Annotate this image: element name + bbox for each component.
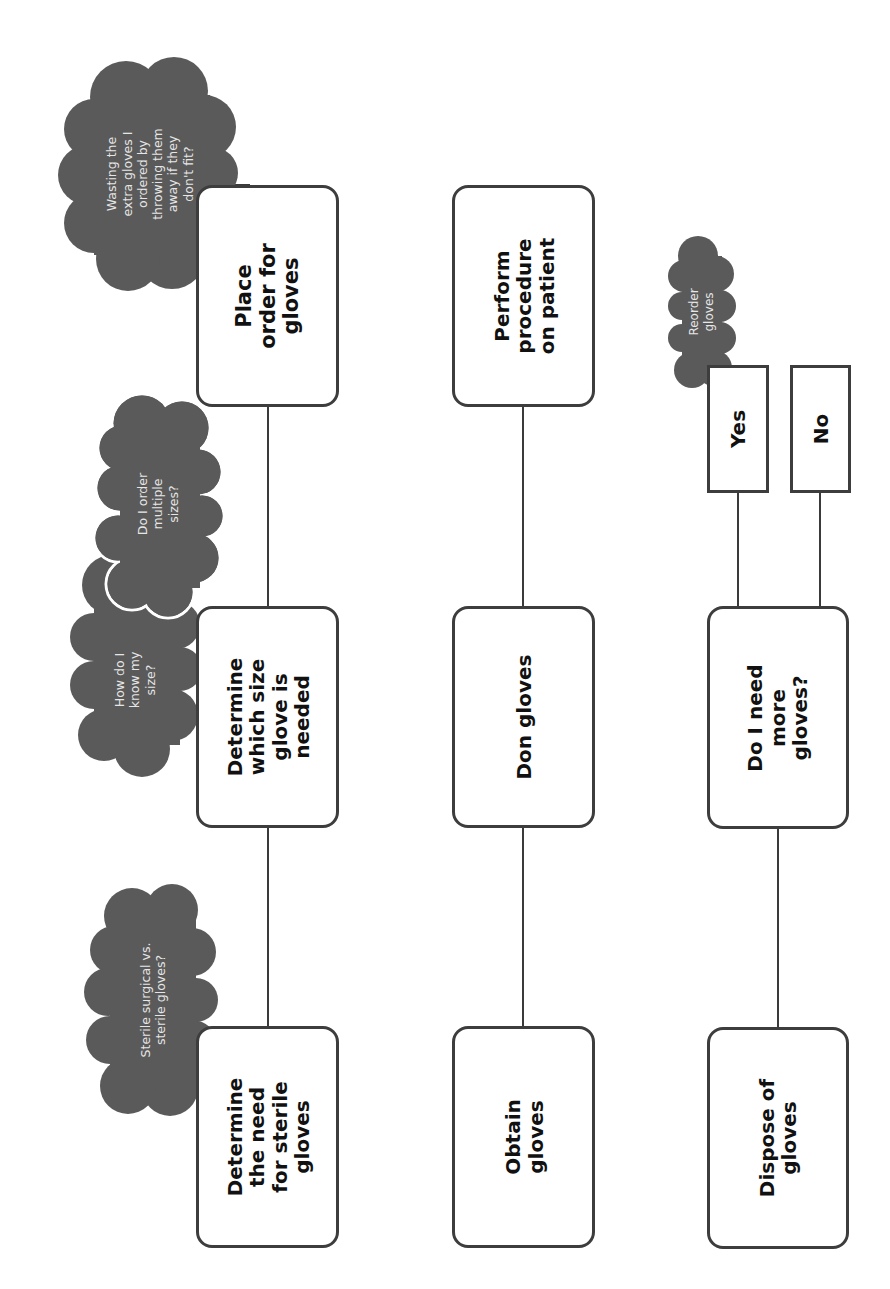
step-obtain-gloves: Obtain gloves bbox=[452, 1026, 595, 1248]
step-place-order-label: Place order for gloves bbox=[232, 243, 303, 349]
branch-no-label: No bbox=[809, 414, 831, 444]
connector-perform-to-don bbox=[522, 406, 524, 608]
cloud-reorder-text: Reorder gloves bbox=[687, 288, 716, 335]
connector-place-to-size bbox=[267, 405, 269, 608]
flowchart-canvas: Wasting the extra gloves I ordered by th… bbox=[0, 0, 890, 1289]
connector-no-to-question bbox=[819, 491, 821, 608]
branch-yes: Yes bbox=[707, 365, 769, 493]
step-determine-need-label: Determine the need for sterile gloves bbox=[223, 1078, 313, 1197]
cloud-sterile-text: Sterile surgical vs. sterile gloves? bbox=[138, 943, 169, 1058]
connector-don-to-obtain bbox=[522, 826, 524, 1028]
cloud-multiple-sizes-text: Do I order multiple sizes? bbox=[135, 473, 181, 535]
step-perform-procedure: Perform procedure on patient bbox=[452, 185, 595, 407]
cloud-multiple-sizes: Do I order multiple sizes? bbox=[98, 388, 218, 620]
branch-yes-label: Yes bbox=[727, 410, 749, 448]
cloud-wasting-text: Wasting the extra gloves I ordered by th… bbox=[104, 128, 196, 220]
step-place-order: Place order for gloves bbox=[196, 185, 339, 407]
connector-size-to-need bbox=[267, 826, 269, 1028]
connector-question-to-dispose bbox=[777, 827, 779, 1029]
step-perform-procedure-label: Perform procedure on patient bbox=[490, 238, 557, 355]
step-obtain-gloves-label: Obtain gloves bbox=[501, 1099, 546, 1174]
step-determine-size-label: Determine which size glove is needed bbox=[223, 658, 313, 777]
cloud-know-size-text: How do I know my size? bbox=[112, 651, 158, 708]
step-dispose-gloves-label: Dispose of gloves bbox=[756, 1079, 801, 1197]
step-dispose-gloves: Dispose of gloves bbox=[707, 1027, 849, 1249]
step-don-gloves-label: Don gloves bbox=[512, 655, 534, 780]
branch-no: No bbox=[790, 365, 851, 493]
step-need-more-gloves-label: Do I need more gloves? bbox=[744, 664, 811, 771]
step-determine-need: Determine the need for sterile gloves bbox=[196, 1026, 339, 1248]
step-determine-size: Determine which size glove is needed bbox=[196, 606, 339, 828]
connector-yes-to-question bbox=[737, 491, 739, 608]
step-need-more-gloves: Do I need more gloves? bbox=[707, 606, 849, 829]
step-don-gloves: Don gloves bbox=[452, 606, 595, 828]
